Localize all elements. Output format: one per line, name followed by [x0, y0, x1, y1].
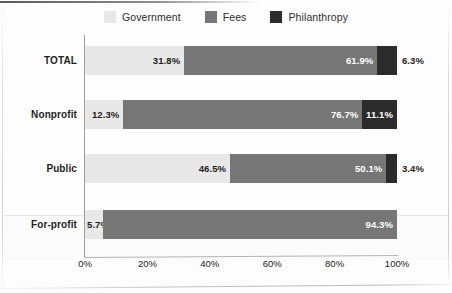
data-label: 3.4% — [402, 164, 424, 174]
category-label-for-profit: For-profit — [31, 210, 77, 239]
stacked-bar: 31.8%61.9%6.3% — [85, 46, 397, 75]
page-edge-bottom — [0, 284, 452, 289]
bar-row: Public46.5%50.1%3.4% — [85, 154, 397, 183]
data-label: 46.5% — [199, 164, 230, 174]
stacked-bar-chart: GovernmentFeesPhilanthropy TOTAL31.8%61.… — [0, 0, 452, 293]
bar-segment-philanthropy[interactable]: 11.1% — [362, 100, 397, 129]
page-edge-right — [448, 6, 449, 286]
legend-item-philanthropy[interactable]: Philanthropy — [270, 11, 348, 23]
stacked-bar: 46.5%50.1%3.4% — [85, 154, 397, 183]
bar-segment-fees[interactable]: 61.9% — [184, 46, 377, 75]
x-tick-label: 20% — [138, 258, 157, 269]
legend-label-fees: Fees — [223, 11, 247, 23]
bar-row: Nonprofit12.3%76.7%11.1% — [85, 100, 397, 129]
x-tick-label: 40% — [200, 258, 219, 269]
bar-segment-philanthropy[interactable]: 6.3% — [377, 46, 397, 75]
category-label-total: TOTAL — [44, 46, 77, 75]
page-edge-top — [0, 1, 260, 3]
bar-segment-fees[interactable]: 94.3% — [103, 210, 397, 239]
chart-legend: GovernmentFeesPhilanthropy — [0, 8, 452, 26]
data-label: 6.3% — [402, 56, 424, 66]
x-axis-tick-labels: 0%20%40%60%80%100% — [85, 258, 397, 274]
data-label: 11.1% — [366, 110, 397, 120]
bar-segment-government[interactable]: 46.5% — [85, 154, 230, 183]
legend-label-philanthropy: Philanthropy — [288, 11, 348, 23]
bar-row: For-profit5.7%94.3% — [85, 210, 397, 239]
category-label-nonprofit: Nonprofit — [31, 100, 77, 129]
legend-swatch-government — [104, 11, 116, 23]
bar-segment-government[interactable]: 5.7% — [85, 210, 103, 239]
legend-item-government[interactable]: Government — [104, 11, 181, 23]
category-label-public: Public — [46, 154, 77, 183]
bar-segment-fees[interactable]: 76.7% — [123, 100, 362, 129]
x-tick-label: 100% — [385, 258, 409, 269]
legend-swatch-fees — [205, 11, 217, 23]
bar-segment-philanthropy[interactable]: 3.4% — [386, 154, 397, 183]
data-label: 12.3% — [92, 110, 123, 120]
bar-segment-government[interactable]: 12.3% — [85, 100, 123, 129]
page-edge-left — [2, 4, 3, 289]
legend-label-government: Government — [122, 11, 181, 23]
data-label: 94.3% — [366, 220, 397, 230]
x-tick-label: 0% — [78, 258, 92, 269]
stacked-bar: 5.7%94.3% — [85, 210, 397, 239]
plot-area: TOTAL31.8%61.9%6.3%Nonprofit12.3%76.7%11… — [85, 38, 397, 253]
legend-item-fees[interactable]: Fees — [205, 11, 247, 23]
data-label: 50.1% — [355, 164, 386, 174]
data-label: 31.8% — [153, 56, 184, 66]
bar-row: TOTAL31.8%61.9%6.3% — [85, 46, 397, 75]
x-tick-label: 80% — [325, 258, 344, 269]
data-label: 76.7% — [331, 110, 362, 120]
data-label: 61.9% — [346, 56, 377, 66]
bar-segment-fees[interactable]: 50.1% — [230, 154, 386, 183]
stacked-bar: 12.3%76.7%11.1% — [85, 100, 397, 129]
x-tick-label: 60% — [263, 258, 282, 269]
legend-swatch-philanthropy — [270, 11, 282, 23]
bar-segment-government[interactable]: 31.8% — [85, 46, 184, 75]
